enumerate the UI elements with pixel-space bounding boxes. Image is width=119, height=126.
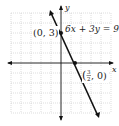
equation-label: 6x + 3y = 9 <box>65 24 119 34</box>
y-intercept-point <box>59 31 63 35</box>
svg-text:2: 2 <box>87 76 91 82</box>
graph: 6x + 3y = 9 (0, 3) ( 3 2 , 0) x y <box>0 0 119 126</box>
x-intercept-label: ( 3 2 , 0) <box>82 69 107 82</box>
y-intercept-label: (0, 3) <box>33 27 59 38</box>
x-intercept-point <box>73 61 77 65</box>
x-axis <box>7 61 114 65</box>
svg-text:(: ( <box>82 69 86 82</box>
svg-text:, 0): , 0) <box>91 70 107 81</box>
x-axis-label: x <box>112 65 117 74</box>
y-axis-label: y <box>64 3 70 12</box>
